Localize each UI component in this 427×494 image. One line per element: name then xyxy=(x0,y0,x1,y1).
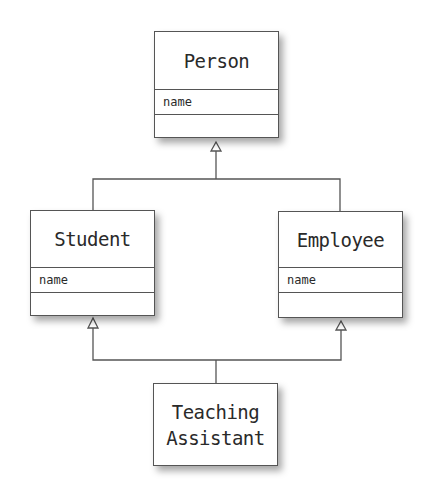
class-name: Student xyxy=(31,211,154,268)
class-name: Person xyxy=(155,32,278,90)
class-operations xyxy=(279,293,402,317)
class-name-line-1: Teaching xyxy=(172,399,260,425)
class-name-line-2: Assistant xyxy=(166,425,264,451)
class-attribute: name xyxy=(31,268,154,293)
class-attribute: name xyxy=(279,268,402,293)
generalization-arrow-icon xyxy=(336,321,346,330)
class-person: Person name xyxy=(154,31,279,138)
class-operations xyxy=(155,115,278,137)
class-teaching-assistant: Teaching Assistant xyxy=(153,383,278,466)
class-student: Student name xyxy=(30,210,155,316)
class-name: Teaching Assistant xyxy=(166,399,264,451)
class-operations xyxy=(31,293,154,315)
generalization-arrow-icon xyxy=(88,318,98,328)
generalization-arrow-icon xyxy=(211,142,221,151)
class-name: Employee xyxy=(279,212,402,268)
class-attribute: name xyxy=(155,90,278,115)
class-employee: Employee name xyxy=(278,211,403,318)
